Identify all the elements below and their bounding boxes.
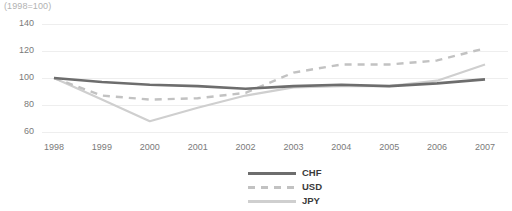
- x-tick-label: 2001: [176, 142, 220, 152]
- x-tick-label: 1998: [32, 142, 76, 152]
- x-tick-label: 2007: [463, 142, 507, 152]
- x-tick-label: 1999: [80, 142, 124, 152]
- legend-label: CHF: [302, 166, 322, 180]
- legend-item-chf[interactable]: CHF: [248, 166, 368, 180]
- legend-label: JPY: [302, 194, 320, 208]
- y-tick-label: 80: [8, 99, 34, 109]
- legend-swatch-icon: [248, 186, 296, 189]
- x-tick-label: 2002: [224, 142, 268, 152]
- x-tick-label: 2004: [319, 142, 363, 152]
- legend-swatch-icon: [248, 200, 296, 203]
- chart-legend: CHFUSDJPY: [248, 166, 368, 208]
- series-lines: [54, 48, 485, 121]
- gridlines: [42, 24, 508, 132]
- legend-label: USD: [302, 180, 322, 194]
- x-tick-label: 2000: [128, 142, 172, 152]
- y-tick-label: 140: [8, 18, 34, 28]
- y-tick-label: 120: [8, 45, 34, 55]
- x-tick-label: 2003: [271, 142, 315, 152]
- x-tick-label: 2006: [415, 142, 459, 152]
- legend-item-usd[interactable]: USD: [248, 180, 368, 194]
- y-tick-label: 100: [8, 72, 34, 82]
- chart-container: (1998=100) 1401201008060 199819992000200…: [0, 0, 512, 211]
- legend-item-jpy[interactable]: JPY: [248, 194, 368, 208]
- series-line-jpy: [54, 65, 485, 122]
- series-line-chf: [54, 78, 485, 89]
- y-tick-label: 60: [8, 126, 34, 136]
- legend-swatch-icon: [248, 172, 296, 175]
- x-tick-label: 2005: [367, 142, 411, 152]
